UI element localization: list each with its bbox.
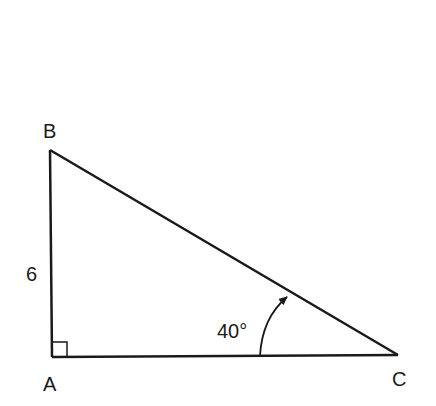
angle-arc-arrow (260, 297, 287, 356)
side-length-label: 6 (26, 263, 37, 285)
triangle-diagram: B A C 6 40° (0, 0, 436, 406)
side-ab (50, 150, 52, 357)
vertex-label-a: A (43, 373, 57, 395)
vertex-label-c: C (392, 368, 406, 390)
vertex-label-b: B (43, 120, 56, 142)
angle-label: 40° (217, 320, 247, 342)
right-angle-marker (53, 342, 67, 357)
side-ac (52, 355, 398, 357)
